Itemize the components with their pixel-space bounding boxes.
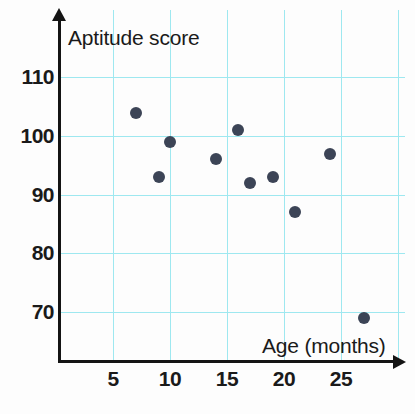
data-point [153,171,165,183]
y-tick-label-110: 110 [6,66,54,87]
gridline-y-90 [58,195,405,196]
gridline-x-30 [398,10,399,362]
x-axis-arrow-icon [393,355,406,369]
x-axis-line [58,360,398,363]
y-tick-label-80: 80 [6,242,54,263]
y-tick-label-100: 100 [6,125,54,146]
x-tick-label-15: 15 [204,368,250,389]
x-tick-label-5: 5 [90,368,136,389]
y-axis-arrow-icon [52,8,66,21]
gridline-y-100 [58,136,405,137]
data-point [324,148,336,160]
data-point [267,171,279,183]
x-tick-label-10: 10 [147,368,193,389]
gridline-y-80 [58,253,405,254]
gridline-y-70 [58,312,405,313]
x-axis-title: Age (months) [262,334,386,358]
gridline-x-25 [341,10,342,362]
data-point [358,312,370,324]
x-tick-label-20: 20 [261,368,307,389]
data-point [232,124,244,136]
gridline-x-15 [227,10,228,362]
scatter-chart: 708090100110 510152025 Aptitude score Ag… [0,0,415,414]
gridline-x-5 [113,10,114,362]
data-point [210,153,222,165]
data-point [164,136,176,148]
y-tick-label-70: 70 [6,301,54,322]
y-axis-title: Aptitude score [68,26,199,50]
data-point [289,206,301,218]
x-tick-label-25: 25 [318,368,364,389]
y-axis-line [58,18,61,362]
gridline-x-10 [170,10,171,362]
data-point [130,107,142,119]
gridline-x-20 [284,10,285,362]
data-point [244,177,256,189]
y-tick-label-90: 90 [6,184,54,205]
gridline-y-110 [58,77,405,78]
